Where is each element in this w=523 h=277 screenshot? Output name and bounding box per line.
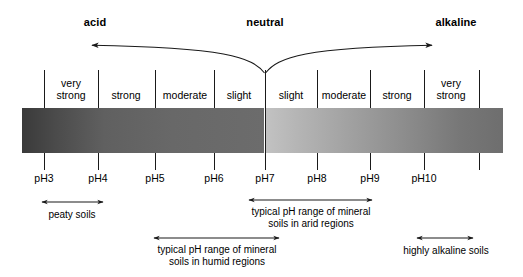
annotation-caption-highly-alkaline-soils: highly alkaline soils (403, 245, 489, 257)
ph-label-pH3: pH3 (34, 172, 53, 184)
strength-label-line: slight (227, 90, 252, 102)
ph-band-acid (22, 108, 264, 153)
strength-label-line: moderate (163, 90, 207, 102)
ph-scale-figure: acidneutralalkaline verystrongstrongmode… (0, 0, 523, 277)
strength-label-alkaline-6: strong (382, 90, 411, 102)
annotation-caption-line: typical pH range of mineral (252, 206, 371, 218)
annotation-caption-peaty-soils: peaty soils (48, 209, 95, 221)
annotation-caption-line: soils in humid regions (158, 256, 277, 268)
ph-band-alkaline (266, 108, 503, 153)
ph-label-pH9: pH9 (360, 172, 379, 184)
ph-label-pH10: pH10 (411, 172, 436, 184)
strength-label-acid-2: moderate (163, 90, 207, 102)
strength-label-line: strong (436, 90, 465, 102)
strength-label-acid-1: strong (111, 90, 140, 102)
strength-label-line: very (436, 78, 465, 90)
ph-label-pH8: pH8 (307, 172, 326, 184)
strength-label-line: slight (279, 90, 304, 102)
annotation-caption-line: soils in arid regions (252, 218, 371, 230)
strength-label-acid-0: verystrong (56, 78, 85, 101)
annotation-caption-arid-mineral-soils: typical pH range of mineralsoils in arid… (252, 206, 371, 230)
strength-label-acid-3: slight (227, 90, 252, 102)
strength-label-line: moderate (322, 90, 366, 102)
ph-label-pH4: pH4 (88, 172, 107, 184)
acid-direction-arrow (92, 45, 265, 73)
strength-label-line: strong (382, 90, 411, 102)
strength-label-line: very (56, 78, 85, 90)
strength-label-line: strong (56, 90, 85, 102)
alkaline-direction-arrow (266, 45, 433, 73)
strength-label-alkaline-5: moderate (322, 90, 366, 102)
ph-label-pH6: pH6 (204, 172, 223, 184)
strength-label-alkaline-4: slight (279, 90, 304, 102)
annotation-caption-line: peaty soils (48, 209, 95, 221)
annotation-caption-line: typical pH range of mineral (158, 244, 277, 256)
strength-label-alkaline-7: verystrong (436, 78, 465, 101)
annotation-caption-humid-mineral-soils: typical pH range of mineralsoils in humi… (158, 244, 277, 268)
strength-label-line: strong (111, 90, 140, 102)
annotation-caption-line: highly alkaline soils (403, 245, 489, 257)
ph-label-pH5: pH5 (145, 172, 164, 184)
ph-label-pH7: pH7 (255, 172, 274, 184)
